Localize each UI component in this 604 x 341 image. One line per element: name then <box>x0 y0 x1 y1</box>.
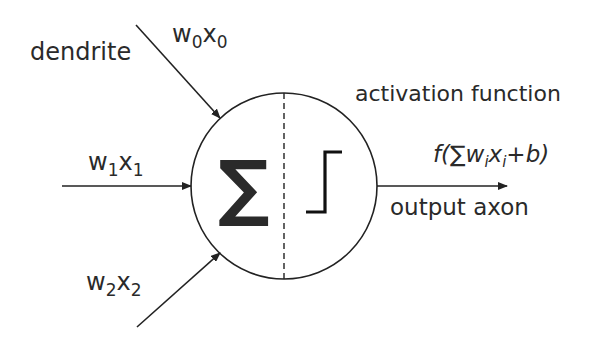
input-arrow-2 <box>137 253 220 327</box>
output-axon-label: output axon <box>390 194 529 220</box>
input1-label: w1x1 <box>88 148 144 180</box>
dendrite-label: dendrite <box>30 38 131 66</box>
input0-label: w0x0 <box>172 20 228 52</box>
formula-label: f(∑wixi+b) <box>433 141 549 171</box>
activation-function-label: activation function <box>355 81 561 106</box>
neuron-diagram: ∑ dendrite w0x0 w1x1 w2x2 activation fun… <box>0 0 604 341</box>
input2-label: w2x2 <box>86 268 142 300</box>
step-function-icon <box>306 152 342 212</box>
summation-symbol: ∑ <box>218 145 270 229</box>
